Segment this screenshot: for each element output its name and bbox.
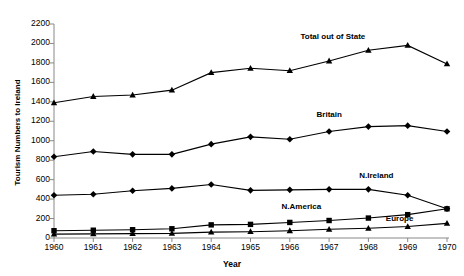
data-point-marker <box>51 153 58 160</box>
data-point-marker <box>405 42 411 48</box>
data-point-marker <box>209 222 214 227</box>
data-point-marker <box>326 186 333 193</box>
data-point-marker <box>444 206 449 211</box>
data-point-marker <box>287 187 294 194</box>
data-point-marker <box>129 151 136 158</box>
series-line <box>54 45 447 102</box>
data-point-marker <box>169 185 176 192</box>
tourism-line-chart: Tourism Numbers to Ireland Year 02004006… <box>0 0 464 276</box>
data-point-marker <box>129 188 136 195</box>
data-point-marker <box>248 222 253 227</box>
data-point-marker <box>247 134 254 141</box>
plot-area <box>0 0 464 276</box>
data-point-marker <box>326 218 331 223</box>
data-point-marker <box>51 192 58 199</box>
data-point-marker <box>247 65 253 71</box>
series-n-ireland <box>51 181 451 212</box>
data-point-marker <box>404 192 411 199</box>
data-point-marker <box>287 220 292 225</box>
data-point-marker <box>247 187 254 194</box>
data-point-marker <box>444 128 451 135</box>
data-point-marker <box>404 122 411 129</box>
data-point-marker <box>169 151 176 158</box>
data-point-marker <box>90 191 97 198</box>
data-point-marker <box>326 128 333 135</box>
series-britain <box>51 122 451 160</box>
data-point-marker <box>208 141 215 148</box>
series-total-out-of-state <box>51 42 450 105</box>
data-point-marker <box>365 186 372 193</box>
data-point-marker <box>444 220 450 226</box>
data-point-marker <box>208 181 215 188</box>
data-point-marker <box>366 215 371 220</box>
series-line <box>54 126 447 157</box>
data-point-marker <box>287 136 294 143</box>
data-point-marker <box>405 212 410 217</box>
data-point-marker <box>90 148 97 155</box>
data-point-marker <box>365 123 372 130</box>
